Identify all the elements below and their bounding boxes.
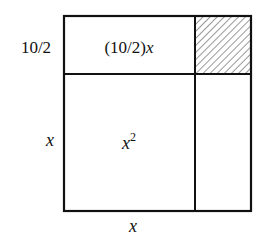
label-bottom-x: x: [128, 216, 137, 236]
top-rect-label-var: x: [145, 38, 154, 57]
completing-square-diagram: 10/2 x x (10/2)x x2: [0, 0, 266, 241]
main-square-label: x2: [121, 130, 136, 153]
label-left-x: x: [45, 130, 54, 150]
top-rect-label-prefix: (10/2): [104, 38, 146, 57]
label-top-left: 10/2: [21, 38, 51, 57]
top-rect-label: (10/2)x: [104, 38, 154, 57]
main-square-label-exp: 2: [130, 130, 136, 144]
corner-square-hatched: [195, 16, 251, 74]
main-square-label-var: x: [121, 133, 130, 153]
